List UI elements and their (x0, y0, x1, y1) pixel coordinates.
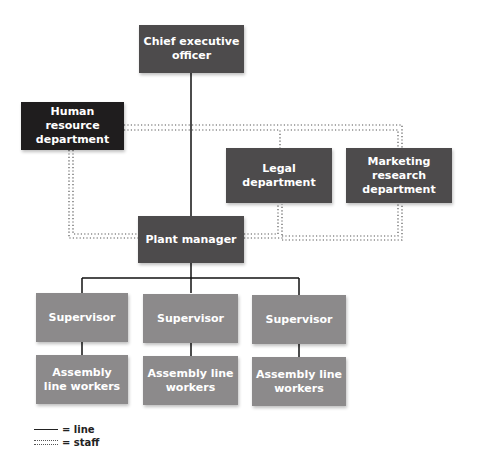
workers-label: Assembly line workers (256, 368, 342, 396)
supervisor-label: Supervisor (157, 312, 224, 326)
plant-manager-node: Plant manager (138, 216, 244, 263)
hr-label: Human resource department (25, 105, 120, 147)
supervisor-node-1: Supervisor (36, 293, 128, 342)
workers-label: Assembly line workers (40, 366, 124, 394)
workers-node-1: Assembly line workers (36, 355, 128, 404)
supervisor-label: Supervisor (266, 313, 333, 327)
legend: = line = staff (34, 423, 99, 449)
dotted-line-icon (34, 440, 58, 445)
ceo-node: Chief executive officer (139, 25, 244, 73)
legend-staff-row: = staff (34, 436, 99, 449)
hr-node: Human resource department (21, 102, 124, 150)
workers-node-2: Assembly line workers (143, 356, 238, 405)
solid-line-icon (34, 429, 58, 430)
legal-label: Legal department (230, 162, 328, 190)
supervisor-node-2: Supervisor (143, 294, 238, 343)
ceo-label: Chief executive officer (143, 35, 240, 63)
legend-line-row: = line (34, 423, 99, 436)
legal-node: Legal department (226, 148, 332, 203)
supervisor-node-3: Supervisor (252, 295, 346, 344)
marketing-node: Marketing research department (346, 148, 452, 203)
plant-manager-label: Plant manager (145, 233, 236, 247)
marketing-label: Marketing research department (350, 155, 448, 197)
workers-label: Assembly line workers (147, 367, 234, 395)
workers-node-3: Assembly line workers (252, 357, 346, 406)
legend-staff-label: = staff (62, 437, 99, 448)
supervisor-label: Supervisor (49, 311, 116, 325)
legend-line-label: = line (62, 424, 95, 435)
